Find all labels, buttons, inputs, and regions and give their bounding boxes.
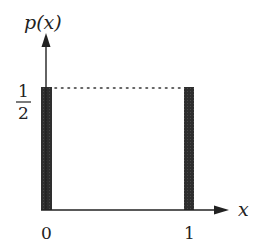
y-tick-half-numerator: 1 [18,81,29,101]
x-axis-arrow-icon [214,206,229,215]
y-tick-half-denominator: 2 [18,103,29,123]
y-axis-label: p(x) [24,11,62,33]
probability-diagram: p(x) 1 2 0 1 x [0,0,257,245]
x-tick-1: 1 [184,223,195,243]
x-tick-0: 0 [41,223,52,243]
y-axis-arrow-icon [42,33,51,47]
bar-x1 [184,87,194,210]
x-axis-label: x [238,198,249,220]
